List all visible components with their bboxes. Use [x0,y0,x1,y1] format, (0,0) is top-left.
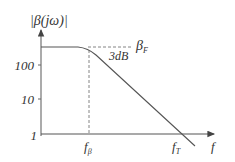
y-tick-label-1: 1 [31,128,38,143]
beta-f-label: βF [135,38,148,55]
x-axis-label: f [211,139,217,154]
f-beta-label: fβ [84,139,92,156]
y-axis-label: |β(jω)| [30,13,68,29]
y-tick-label-10: 10 [21,92,35,107]
three-db-label: 3dB [108,49,129,63]
bode-plot: |β(jω)| 100 10 1 3dB βF fβ fT f [0,0,235,162]
y-tick-label-100: 100 [15,58,35,73]
f-t-label: fT [172,139,181,156]
